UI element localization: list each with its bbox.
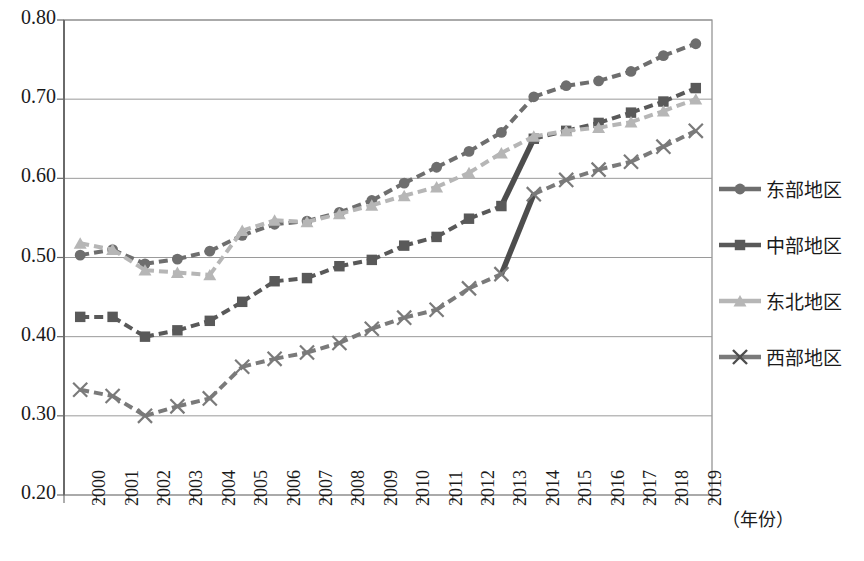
y-axis-tick-label: 0.40 [0, 323, 56, 346]
series-line-segment [663, 131, 695, 147]
triangle-legend-icon [718, 290, 762, 312]
series-line-segment [469, 132, 501, 151]
legend-marker [718, 290, 762, 310]
x-axis-tick-label: 2016 [608, 470, 629, 506]
series-line-segment [404, 167, 436, 183]
series-东部地区 [80, 44, 696, 264]
data-point-circle [496, 127, 507, 138]
data-point-square [691, 83, 701, 93]
series-line-segment [631, 56, 663, 72]
line-chart: 0.800.700.600.500.400.300.20 20002001200… [0, 0, 864, 561]
data-point-square [140, 331, 150, 341]
data-point-circle [399, 178, 410, 189]
data-point-circle [172, 254, 183, 265]
y-axis-tick-label: 0.30 [0, 402, 56, 425]
data-point-circle [204, 246, 215, 257]
data-point-circle [528, 91, 539, 102]
square-legend-icon [718, 234, 762, 256]
data-point-square [399, 240, 409, 250]
y-axis-tick-label: 0.80 [0, 6, 56, 29]
legend-label: 中部地区 [766, 231, 842, 258]
data-point-circle [593, 76, 604, 87]
data-point-circle [464, 146, 475, 157]
circle-legend-icon [718, 178, 762, 200]
data-point-square [302, 273, 312, 283]
legend-marker [718, 234, 762, 254]
data-point-square [334, 261, 344, 271]
legend-label: 东部地区 [766, 175, 842, 202]
x-axis-tick-label: 2007 [316, 470, 337, 506]
series-line-segment [631, 147, 663, 162]
data-point-square [75, 312, 85, 322]
x-axis-tick-label: 2001 [122, 470, 143, 506]
x-axis-tick-label: 2017 [640, 470, 661, 506]
series-line-segment [501, 97, 533, 133]
legend-item-square[interactable]: 中部地区 [718, 216, 864, 272]
x-axis-tick-label: 2013 [510, 470, 531, 506]
data-point-square [205, 316, 215, 326]
data-point-square [269, 276, 279, 286]
series-line-segment [469, 274, 501, 288]
data-point-square [237, 297, 247, 307]
legend-item-circle[interactable]: 东部地区 [718, 160, 864, 216]
x-axis-tick-label: 2000 [89, 470, 110, 506]
data-point-square [496, 201, 506, 211]
x-axis-tick-label: 2005 [251, 470, 272, 506]
data-point-square [107, 312, 117, 322]
series-line-segment [339, 329, 371, 343]
x-axis-tick-label: 2018 [672, 470, 693, 506]
x-axis-tick-label: 2015 [575, 470, 596, 506]
data-point-circle [431, 162, 442, 173]
data-point-circle [626, 66, 637, 77]
y-axis-tick-label: 0.50 [0, 244, 56, 267]
legend-marker [718, 178, 762, 198]
legend-item-triangle[interactable]: 东北地区 [718, 272, 864, 328]
series-line-segment [437, 173, 469, 187]
series-line-segment [177, 273, 209, 275]
x-axis-tick-label: 2010 [413, 470, 434, 506]
x-axis-tick-label: 2008 [348, 470, 369, 506]
legend: 东部地区中部地区东北地区西部地区 [718, 160, 864, 384]
x-axis-tick-label: 2009 [381, 470, 402, 506]
data-point-square [367, 255, 377, 265]
series-东北地区 [80, 99, 696, 275]
data-point-square [464, 213, 474, 223]
data-point-square [172, 325, 182, 335]
legend-marker [718, 346, 762, 366]
x-axis-tick-label: 2003 [186, 470, 207, 506]
data-point-circle [690, 38, 701, 49]
y-axis-tick-label: 0.60 [0, 164, 56, 187]
x-axis-tick-label: 2004 [219, 470, 240, 506]
cross-legend-icon [718, 346, 762, 368]
x-axis-tick-label: 2012 [478, 470, 499, 506]
x-axis-tick-label: 2002 [154, 470, 175, 506]
x-axis-tick-label: 2011 [446, 471, 467, 506]
x-axis-title: （年份） [722, 505, 794, 531]
x-axis-tick-label: 2019 [705, 470, 726, 506]
y-axis-tick-label: 0.20 [0, 481, 56, 504]
data-point-square [431, 232, 441, 242]
legend-label: 西部地区 [766, 343, 842, 370]
x-axis-tick-label: 2006 [284, 470, 305, 506]
data-point-circle [561, 80, 572, 91]
series-line-segment [534, 180, 566, 194]
legend-label: 东北地区 [766, 287, 842, 314]
series-line-segment [437, 151, 469, 167]
series-line-segment [113, 396, 145, 416]
series-line-segment [145, 270, 177, 272]
data-point-circle [75, 250, 86, 261]
legend-item-cross[interactable]: 西部地区 [718, 328, 864, 384]
series-line-segment [437, 288, 469, 309]
data-point-circle [658, 50, 669, 61]
x-axis-tick-label: 2014 [543, 470, 564, 506]
y-axis-tick-label: 0.70 [0, 85, 56, 108]
